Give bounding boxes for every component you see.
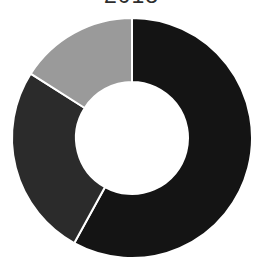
donut-chart (0, 0, 263, 258)
donut-slices (11, 17, 253, 258)
